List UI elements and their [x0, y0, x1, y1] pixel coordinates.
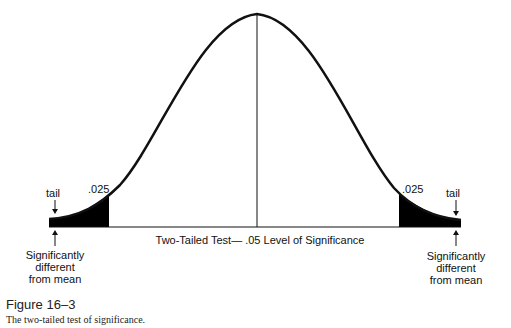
- figure-number: Figure 16–3: [6, 297, 75, 312]
- left-significance-label: Significantly different from mean: [20, 249, 90, 285]
- right-area-label: .025: [402, 183, 423, 195]
- right-significance-arrow-icon: [453, 230, 459, 246]
- left-tail-region: [49, 195, 109, 227]
- right-tail-arrow-icon: [453, 200, 459, 216]
- figure-caption: The two-tailed test of significance.: [6, 314, 145, 325]
- right-tail-label: tail: [446, 187, 460, 199]
- left-tail-arrow-icon: [52, 200, 58, 214]
- left-significance-arrow-icon: [52, 230, 58, 246]
- bell-curve: [49, 14, 461, 220]
- left-tail-label: tail: [46, 187, 60, 199]
- left-area-label: .025: [88, 183, 109, 195]
- baseline-label: Two-Tailed Test— .05 Level of Significan…: [150, 234, 370, 246]
- right-significance-label: Significantly different from mean: [421, 250, 491, 286]
